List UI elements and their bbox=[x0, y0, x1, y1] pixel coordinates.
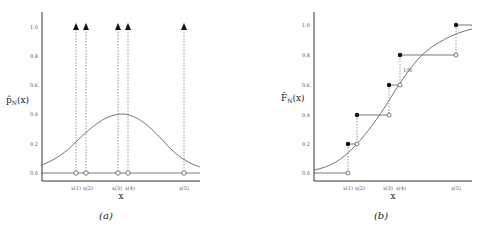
gaussian-density-curve bbox=[42, 114, 200, 167]
triangle-up-icon bbox=[125, 23, 131, 30]
xtick-1: x(1) bbox=[71, 185, 81, 191]
impulse-lines bbox=[76, 29, 184, 173]
triangle-up-icon bbox=[83, 23, 89, 30]
panel-b: 0.0 0.2 0.4 0.6 0.8 1.0 F̂N(x) bbox=[281, 12, 472, 221]
step-jumps bbox=[348, 25, 456, 173]
y-axis-label: F̂N(x) bbox=[281, 92, 305, 104]
caption-a: (a) bbox=[99, 210, 113, 221]
xtick-5: x(5) bbox=[451, 185, 461, 191]
ytick-4: 0.8 bbox=[30, 53, 38, 59]
y-axis-label: p̂N(x) bbox=[6, 95, 29, 106]
triangle-up-icon bbox=[73, 23, 79, 30]
ytick-4: 0.8 bbox=[302, 52, 310, 58]
ytick-5: 1.0 bbox=[302, 22, 310, 28]
triangle-up-icon bbox=[115, 23, 121, 30]
x-axis-label: x bbox=[118, 191, 123, 201]
xtick-2: x(2) bbox=[83, 185, 93, 191]
triangle-up-icon bbox=[181, 23, 187, 30]
xtick-5: x(5) bbox=[179, 185, 189, 191]
caption-b: (b) bbox=[374, 210, 388, 221]
impulse-arrowheads bbox=[73, 23, 187, 30]
ytick-5: 1.0 bbox=[30, 24, 38, 30]
x-axis-label: x bbox=[390, 191, 395, 201]
figure: 0.0 0.2 0.4 0.6 0.8 1.0 p̂N(x) bbox=[0, 0, 483, 234]
jump-annotation: 1/N bbox=[403, 67, 413, 73]
gaussian-cdf-curve bbox=[314, 29, 472, 170]
open-markers bbox=[346, 53, 458, 175]
ytick-0: 0.0 bbox=[30, 170, 38, 176]
ytick-1: 0.2 bbox=[302, 141, 310, 147]
panel-a: 0.0 0.2 0.4 0.6 0.8 1.0 p̂N(x) bbox=[6, 12, 200, 221]
ytick-0: 0.0 bbox=[302, 170, 310, 176]
xtick-1: x(1) bbox=[343, 185, 353, 191]
step-horizontals bbox=[314, 25, 472, 173]
ytick-3: 0.6 bbox=[302, 82, 310, 88]
ytick-1: 0.2 bbox=[30, 141, 38, 147]
xtick-4: x(4) bbox=[396, 185, 406, 191]
ytick-2: 0.4 bbox=[302, 112, 310, 118]
xtick-2: x(2) bbox=[355, 185, 365, 191]
xtick-4: x(4) bbox=[125, 185, 135, 191]
ytick-2: 0.4 bbox=[30, 111, 38, 117]
ytick-3: 0.6 bbox=[30, 82, 38, 88]
